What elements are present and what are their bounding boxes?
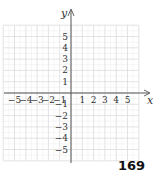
y-tick-label: 2 — [62, 65, 68, 75]
x-tick-label: 3 — [102, 95, 108, 105]
y-tick-label: −3 — [55, 122, 69, 132]
x-tick-labels: −5−4−3−2−112345 — [8, 95, 131, 105]
y-tick-label: −1 — [55, 99, 68, 109]
page-number: 169 — [118, 158, 145, 173]
x-tick-label: 4 — [113, 95, 119, 105]
y-axis-label: y — [60, 7, 68, 20]
y-tick-label: 4 — [62, 43, 68, 53]
y-tick-label: 1 — [62, 77, 68, 87]
axes: x y — [4, 7, 154, 163]
y-tick-label: −2 — [55, 111, 68, 121]
coordinate-plane: x y −5−4−3−2−112345 54321−1−2−3−4−5 — [0, 0, 156, 178]
x-tick-label: 2 — [91, 95, 97, 105]
x-tick-label: 5 — [125, 95, 131, 105]
x-axis-label: x — [147, 94, 154, 107]
y-tick-label: −5 — [55, 145, 69, 155]
x-tick-label: 1 — [79, 95, 85, 105]
y-tick-label: 3 — [62, 54, 68, 64]
y-tick-label: −4 — [55, 133, 69, 143]
y-tick-label: 5 — [62, 32, 68, 42]
